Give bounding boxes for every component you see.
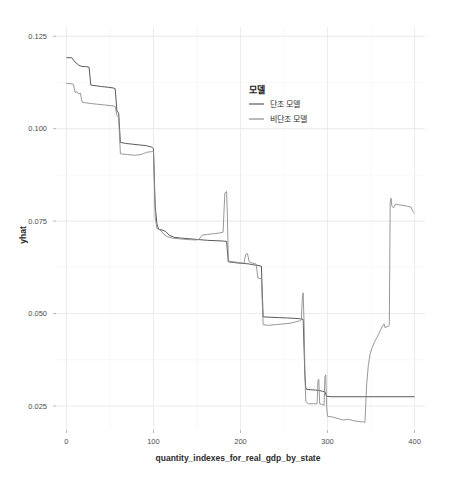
- x-axis-title: quantity_indexes_for_real_gdp_by_state: [156, 453, 321, 463]
- x-tick-label: 300: [321, 437, 334, 446]
- y-tick-label: 0.025: [28, 402, 47, 411]
- legend-item-label: 단조 모델: [270, 99, 300, 109]
- y-tick-label: 0.125: [28, 32, 47, 41]
- y-tick-label: 0.100: [28, 124, 47, 133]
- x-tick-label: 0: [64, 437, 68, 446]
- legend-item-label: 비단조 모델: [270, 114, 307, 124]
- x-tick-label: 100: [147, 437, 160, 446]
- plot-svg: 0.0250.0500.0750.1000.125 0100200300400 …: [0, 0, 456, 483]
- chart-figure: 0.0250.0500.0750.1000.125 0100200300400 …: [0, 0, 456, 483]
- legend-title: 모델: [249, 84, 265, 95]
- y-tick-label: 0.075: [28, 217, 47, 226]
- y-tick-label: 0.050: [28, 309, 47, 318]
- y-axis-title: yhat: [18, 226, 28, 244]
- x-tick-label: 400: [408, 437, 421, 446]
- x-tick-label: 200: [234, 437, 247, 446]
